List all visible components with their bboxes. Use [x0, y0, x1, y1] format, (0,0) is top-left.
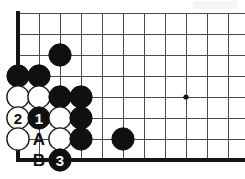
- stone-numbered: 3: [49, 149, 71, 171]
- stone: [49, 44, 71, 66]
- stone-numbered: 2: [7, 107, 29, 129]
- stone: [7, 65, 29, 87]
- stone: [49, 86, 71, 108]
- white-stone-icon: [7, 86, 29, 108]
- white-stone-icon: [49, 107, 71, 129]
- white-stone-icon: [7, 128, 29, 150]
- stone: [70, 128, 92, 150]
- move-number-label: 1: [35, 110, 43, 127]
- stones-layer: 213: [7, 44, 134, 171]
- stone: [7, 86, 29, 108]
- stone: [70, 86, 92, 108]
- move-number-label: 2: [14, 110, 22, 127]
- star-point-icon: [183, 94, 188, 99]
- goban-svg: 213 AB: [0, 0, 245, 179]
- black-stone-icon: [7, 65, 29, 87]
- black-stone-icon: [70, 86, 92, 108]
- stone: [49, 128, 71, 150]
- stone: [28, 86, 50, 108]
- black-stone-icon: [70, 128, 92, 150]
- white-stone-icon: [28, 86, 50, 108]
- black-stone-icon: [112, 128, 134, 150]
- black-stone-icon: [49, 86, 71, 108]
- black-stone-icon: [28, 65, 50, 87]
- intersection-label: B: [33, 151, 45, 170]
- black-stone-icon: [49, 44, 71, 66]
- white-stone-icon: [49, 128, 71, 150]
- go-board-diagram: 213 AB: [0, 0, 245, 179]
- stone: [112, 128, 134, 150]
- intersection-label: A: [33, 130, 45, 149]
- stone: [7, 128, 29, 150]
- stone-numbered: 1: [28, 107, 50, 129]
- star-points: [183, 94, 188, 99]
- black-stone-icon: [70, 107, 92, 129]
- stone: [70, 107, 92, 129]
- stone: [28, 65, 50, 87]
- scan-artifact: [193, 1, 237, 9]
- stone: [49, 107, 71, 129]
- move-number-label: 3: [56, 152, 64, 169]
